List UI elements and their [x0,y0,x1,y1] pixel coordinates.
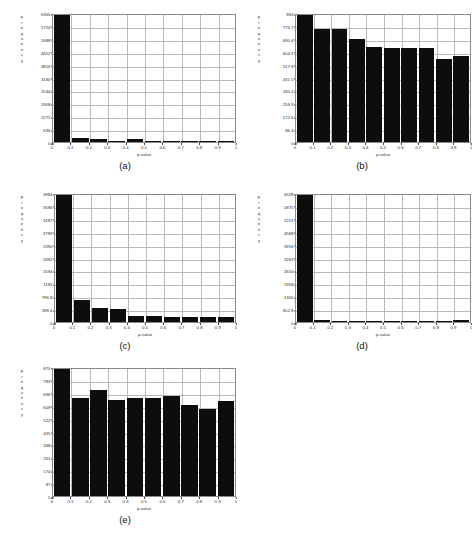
y-axis-tick-label: 690.4 [283,37,294,42]
y-axis-tick-label: 652.8 [283,308,294,313]
bar [145,141,162,142]
x-axis-tick-label: 0.6 [159,145,165,150]
bar [108,400,125,496]
bar [163,396,180,496]
y-axis-label: Frequency [18,368,26,497]
bar [218,401,235,496]
x-axis-tick-label: 0.6 [160,325,166,330]
y-axis-label: Frequency [255,194,263,323]
x-axis-tick-label: 0.1 [310,325,316,330]
y-axis-tick-label: 3586 [43,204,53,209]
plot-area-d [295,194,471,323]
y-axis-tick-label: 258.9 [283,102,294,107]
bar [401,48,417,142]
bar [146,316,162,322]
x-axis-tick-label: 0.6 [398,325,404,330]
x-axis-tick-label: 0.8 [196,145,202,150]
x-axis-tick-label: 0.8 [196,499,202,504]
x-axis-tick-label: 0.2 [327,325,333,330]
x-axis-tick-label: 0.5 [141,145,147,150]
x-axis-tick-label: 0.6 [398,145,404,150]
y-axis-tick-label: 2789 [43,230,53,235]
x-axis-tick-label: 0.8 [197,325,203,330]
bar [366,47,382,142]
bar [145,398,162,496]
bar [74,300,90,322]
y-axis-tick-label: 3984 [43,192,53,197]
x-axis-tick-label: 0.5 [141,499,147,504]
x-axis-tick-label: 0 [51,499,53,504]
bar [384,321,400,322]
bar [182,317,198,322]
y-axis-tick-label: 87 [46,482,51,487]
y-axis-tick-label: 3180 [41,76,51,81]
bar [127,398,144,496]
x-axis-tick-label: 0.4 [362,145,368,150]
plot-area-c [54,194,236,323]
y-axis-ticks: 087174261348435522609696783870 [26,368,52,497]
y-axis-tick-label: 6360 [41,12,51,17]
bar [200,317,216,322]
y-axis-ticks: 0636127219082544318038164452508857246360 [26,14,52,143]
y-axis-tick-label: 4452 [41,50,51,55]
y-axis-tick-label: 696 [43,391,50,396]
y-axis-tick-label: 398.4 [42,308,53,313]
y-axis-tick-label: 776.7 [283,24,294,29]
y-axis-tick-label: 870 [43,366,50,371]
x-axis-tick-label: 0.7 [178,499,184,504]
x-axis-tick-label: 0.8 [433,325,439,330]
x-axis-tick-label: 1 [235,325,237,330]
bar [181,141,198,142]
bar [72,398,89,496]
x-axis-tick-label: 0.3 [106,325,112,330]
x-axis-tick-label: 0.3 [345,325,351,330]
bar-series [296,195,470,322]
y-axis-tick-label: 1272 [41,115,51,120]
y-axis-tick-label: 3816 [41,63,51,68]
bar [199,409,216,496]
x-axis-tick-label: 0.5 [380,145,386,150]
x-axis-tick-label: 0.2 [87,325,93,330]
x-axis-tick-label: 0.1 [67,499,73,504]
y-axis-label: Frequency [18,14,26,143]
bar [164,317,180,322]
bar [297,194,313,322]
x-axis-tick-label: 0.5 [380,325,386,330]
y-axis-tick-label: 2544 [41,89,51,94]
bar [366,321,382,322]
bar [218,317,234,322]
y-axis-tick-label: 2390 [43,243,53,248]
bar [92,308,108,322]
figure-page: { "figure": { "caption_a": "(a)", "capti… [0,0,474,536]
plot-area-e [52,368,236,497]
y-axis-tick-label: 636 [43,128,50,133]
x-axis-tick-label: 0.4 [124,325,130,330]
y-axis-tick-label: 1305 [284,295,294,300]
y-axis-ticks: 0652.81305195826103263391645685221587565… [269,194,295,323]
y-axis-tick-label: 1594 [43,269,53,274]
x-axis-tick-label: 0.4 [123,145,129,150]
x-axis-tick-label: 0.9 [215,145,221,150]
panel-caption-b: (b) [255,160,469,171]
y-axis-tick-label: 4568 [284,230,294,235]
x-axis-tick-label: 0 [294,325,296,330]
x-axis-tick-label: 0.3 [345,145,351,150]
x-axis-ticks: 00.10.20.30.40.50.60.70.80.91 [52,143,236,152]
x-axis-tick-label: 0.9 [450,145,456,150]
bar [314,29,330,142]
x-axis-tick-label: 0.3 [104,499,110,504]
x-axis-ticks: 00.10.20.30.40.50.60.70.80.91 [52,497,236,506]
x-axis-tick-label: 0.4 [123,499,129,504]
x-axis-tick-label: 0.1 [69,325,75,330]
x-axis-tick-label: 0.9 [215,325,221,330]
x-axis-title: p-value [52,152,236,157]
plot-area-a [52,14,236,143]
y-axis-tick-label: 3916 [284,243,294,248]
x-axis-tick-label: 1 [235,145,237,150]
y-axis-label-letter: y [21,237,23,242]
y-axis-label: Frequency [255,14,263,143]
y-axis-label-letter: y [258,237,260,242]
y-axis-tick-label: 1992 [43,256,53,261]
bar [90,390,107,496]
bar [199,141,216,142]
